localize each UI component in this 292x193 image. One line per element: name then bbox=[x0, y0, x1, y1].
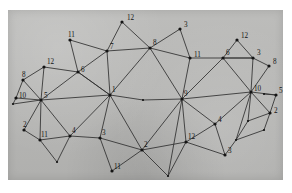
graph-edge bbox=[110, 95, 143, 100]
graph-edge bbox=[182, 58, 223, 99]
graph-node bbox=[223, 153, 226, 156]
graph-node-label: 12 bbox=[188, 133, 196, 141]
graph-edge bbox=[41, 95, 110, 100]
graph-node-label: 7 bbox=[110, 43, 114, 51]
graph-edge bbox=[237, 40, 253, 58]
graph-edge bbox=[168, 99, 182, 176]
graph-node-label: 4 bbox=[72, 127, 76, 135]
graph-edge bbox=[251, 58, 253, 92]
graph-node-label: 11 bbox=[194, 51, 201, 59]
graph-edge bbox=[150, 48, 190, 58]
graph-edge bbox=[100, 138, 112, 171]
graph-edge bbox=[143, 99, 182, 100]
graph-edge bbox=[110, 48, 150, 95]
graph-node-label: 3 bbox=[184, 21, 188, 29]
graph-node bbox=[148, 46, 151, 49]
graph-node-label: 5 bbox=[44, 92, 48, 100]
graph-node-label: 3 bbox=[257, 49, 261, 57]
graph-edge bbox=[236, 130, 264, 140]
graph-svg: 123111278116312688101055192241143122311 bbox=[0, 0, 292, 193]
graph-node bbox=[249, 90, 252, 93]
graph-edge bbox=[180, 29, 190, 58]
graph-node bbox=[263, 129, 265, 131]
graph-node bbox=[268, 111, 271, 114]
graph-node bbox=[120, 20, 123, 23]
graph-node-label: 9 bbox=[184, 90, 188, 98]
graph-node bbox=[221, 56, 224, 59]
graph-node-label: 2 bbox=[274, 107, 278, 115]
graph-node-label: 11 bbox=[41, 131, 48, 139]
graph-edge bbox=[182, 99, 215, 124]
graph-node bbox=[167, 175, 169, 177]
node-layer bbox=[12, 20, 278, 177]
graph-node-label: 1 bbox=[112, 86, 116, 94]
graph-node-label: 12 bbox=[127, 14, 135, 22]
graph-node-label: 12 bbox=[47, 58, 55, 66]
graph-node bbox=[188, 56, 191, 59]
graph-node-label: 4 bbox=[218, 116, 222, 124]
graph-edge bbox=[264, 94, 276, 95]
graph-node bbox=[213, 122, 216, 125]
graph-edge bbox=[70, 136, 100, 138]
graph-node bbox=[56, 161, 58, 163]
graph-node bbox=[235, 139, 237, 141]
graph-node-label: 10 bbox=[254, 85, 262, 93]
edge-layer bbox=[13, 22, 276, 176]
graph-edge bbox=[23, 67, 44, 80]
graph-edge bbox=[264, 113, 270, 130]
graph-node bbox=[76, 70, 79, 73]
graph-node bbox=[251, 56, 254, 59]
graph-node bbox=[235, 38, 238, 41]
graph-node-label: 12 bbox=[241, 32, 249, 40]
graph-node-label: 2 bbox=[23, 121, 27, 129]
graph-edge bbox=[78, 72, 110, 95]
graph-edge bbox=[24, 130, 40, 140]
graph-node bbox=[12, 103, 14, 105]
graph-edge bbox=[186, 142, 225, 155]
graph-node bbox=[247, 120, 249, 122]
graph-node bbox=[178, 27, 181, 30]
graph-node bbox=[274, 93, 277, 96]
graph-node bbox=[267, 64, 270, 67]
graph-edge bbox=[182, 99, 186, 142]
graph-node bbox=[39, 98, 42, 101]
graph-node-label: 2 bbox=[144, 141, 148, 149]
graph-node-label: 8 bbox=[22, 71, 26, 79]
graph-edge bbox=[223, 58, 251, 92]
graph-edge bbox=[142, 142, 186, 150]
graph-node-label: 11 bbox=[68, 31, 75, 39]
graph-node-label: 3 bbox=[102, 129, 106, 137]
graph-edge bbox=[13, 100, 41, 104]
graph-edge bbox=[142, 99, 182, 150]
graph-node-label: 8 bbox=[153, 39, 157, 47]
graph-node bbox=[142, 99, 144, 101]
graph-edge bbox=[253, 58, 269, 66]
graph-node bbox=[105, 49, 108, 52]
graph-node bbox=[42, 65, 45, 68]
graph-edge bbox=[215, 124, 225, 155]
graph-node-label: 6 bbox=[226, 49, 230, 57]
graph-edge bbox=[150, 48, 182, 99]
graph-edge bbox=[142, 150, 168, 176]
graph-edge bbox=[70, 40, 78, 72]
graph-node-label: 10 bbox=[19, 92, 27, 100]
graph-edge bbox=[182, 92, 251, 99]
graph-edge bbox=[122, 22, 150, 48]
graph-edge bbox=[107, 51, 110, 95]
graph-edge bbox=[236, 121, 248, 140]
graph-edge bbox=[248, 113, 270, 121]
graph-edge bbox=[251, 92, 270, 113]
graph-node-label: 6 bbox=[81, 66, 85, 74]
figure-container: 123111278116312688101055192241143122311 bbox=[0, 0, 292, 193]
graph-edge bbox=[40, 140, 57, 162]
graph-node bbox=[263, 93, 265, 95]
graph-edge bbox=[70, 40, 107, 51]
graph-edge bbox=[57, 136, 70, 162]
graph-node-label: 8 bbox=[273, 58, 277, 66]
graph-edge bbox=[44, 67, 78, 72]
graph-node-label: 5 bbox=[279, 87, 283, 95]
graph-node bbox=[14, 96, 17, 99]
graph-node-label: 11 bbox=[114, 163, 121, 171]
graph-node-label: 3 bbox=[228, 147, 232, 155]
graph-edge bbox=[110, 95, 142, 150]
